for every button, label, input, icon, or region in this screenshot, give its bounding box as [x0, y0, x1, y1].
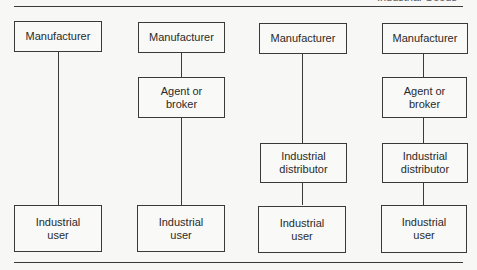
user-label-line2: user: [402, 229, 447, 242]
distributor-label-line1: Industrial: [279, 150, 327, 163]
manufacturer-label: Manufacturer: [271, 32, 336, 45]
manufacturer-label: Manufacturer: [393, 32, 458, 45]
agent-label-line2: broker: [161, 98, 203, 111]
user-label-line1: Industrial: [36, 216, 81, 229]
manufacturer-box: Manufacturer: [382, 23, 468, 54]
agent-label-line1: Agent or: [404, 85, 446, 98]
industrial-user-box: Industrial user: [381, 205, 467, 253]
agent-label-line1: Agent or: [161, 85, 203, 98]
industrial-user-box: Industrial user: [14, 205, 102, 252]
connector-line: [58, 52, 59, 205]
distributor-label-line1: Industrial: [401, 150, 449, 163]
user-label-line2: user: [280, 230, 325, 243]
agent-broker-box: Agent or broker: [382, 77, 467, 118]
distributor-label-line2: distributor: [401, 163, 449, 176]
industrial-distributor-box: Industrial distributor: [382, 143, 468, 183]
bottom-rule: [14, 262, 463, 263]
manufacturer-box: Manufacturer: [138, 22, 225, 53]
top-rule: [14, 6, 463, 7]
user-label-line2: user: [159, 229, 204, 242]
industrial-user-box: Industrial user: [137, 205, 225, 252]
connector-line: [181, 52, 182, 205]
header-caption-partial: Industrial Goods: [377, 0, 457, 3]
industrial-user-box: Industrial user: [258, 206, 346, 253]
industrial-distributor-box: Industrial distributor: [260, 143, 347, 183]
user-label-line2: user: [36, 229, 81, 242]
agent-broker-box: Agent or broker: [138, 77, 225, 118]
distributor-label-line2: distributor: [279, 163, 327, 176]
user-label-line1: Industrial: [280, 217, 325, 230]
manufacturer-label: Manufacturer: [26, 30, 91, 43]
manufacturer-box: Manufacturer: [259, 23, 347, 54]
user-label-line1: Industrial: [402, 216, 447, 229]
user-label-line1: Industrial: [159, 216, 204, 229]
manufacturer-label: Manufacturer: [149, 31, 214, 44]
agent-label-line2: broker: [404, 98, 446, 111]
manufacturer-box: Manufacturer: [14, 21, 102, 52]
